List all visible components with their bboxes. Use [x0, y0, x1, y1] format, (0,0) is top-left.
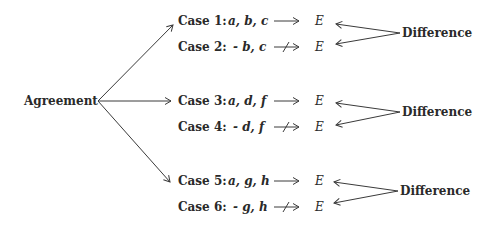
difference-arrow-case6 [334, 191, 398, 203]
case-label: Case 4: [178, 120, 227, 134]
agreement-arrow-case1 [98, 25, 173, 101]
agreement-label: Agreement [24, 94, 98, 108]
agreement-arrow-case5 [98, 101, 170, 182]
case-label: Case 6: [178, 200, 227, 214]
case-label: Case 5: [178, 174, 227, 188]
case-factors: a, g, h [228, 174, 270, 188]
case-factors: a, b, c [228, 14, 268, 28]
effect-label: E [315, 40, 324, 54]
effect-label: E [315, 94, 324, 108]
difference-arrow-case1 [336, 24, 400, 33]
case-label: Case 1: [178, 14, 227, 28]
case-factors: - g, h [233, 200, 268, 214]
difference-arrow-case4 [336, 112, 400, 125]
case-label: Case 3: [178, 94, 227, 108]
difference-arrow-case2 [336, 33, 400, 44]
effect-label: E [315, 200, 324, 214]
effect-label: E [315, 120, 324, 134]
case-factors: - b, c [233, 40, 266, 54]
difference-label: Difference [400, 184, 470, 198]
difference-arrow-case5 [334, 182, 398, 191]
case-label: Case 2: [178, 40, 227, 54]
case-factors: - d, f [233, 120, 264, 134]
effect-label: E [315, 14, 324, 28]
difference-label: Difference [402, 26, 472, 40]
effect-label: E [315, 174, 324, 188]
difference-arrow-case3 [336, 103, 400, 112]
case-factors: a, d, f [228, 94, 266, 108]
difference-label: Difference [402, 105, 472, 119]
